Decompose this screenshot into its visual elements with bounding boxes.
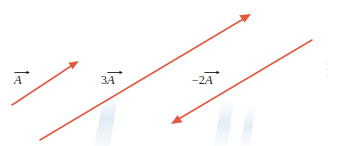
vector-label-minus-2a: −2A bbox=[192, 74, 213, 87]
vector-label-a: A bbox=[14, 74, 22, 87]
vector-label-3a-letter: A bbox=[107, 73, 115, 87]
vector-label-minus-2a-symbol: A bbox=[205, 74, 213, 87]
vector-label-3a: 3A bbox=[101, 74, 115, 87]
vector-label-a-symbol: A bbox=[14, 74, 22, 87]
vector-label-minus-2a-scalar: −2 bbox=[192, 73, 205, 87]
vector-diagram-canvas bbox=[0, 0, 344, 146]
vector-label-3a-symbol: A bbox=[107, 74, 115, 87]
vector-label-a-letter: A bbox=[14, 73, 22, 87]
vector-figure: A 3A −2A bbox=[0, 0, 344, 146]
vector-label-minus-2a-letter: A bbox=[205, 73, 213, 87]
